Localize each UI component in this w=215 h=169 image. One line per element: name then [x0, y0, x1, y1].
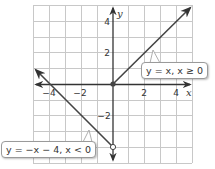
closed-point-origin — [110, 81, 115, 86]
svg-text:−2: −2 — [73, 88, 86, 98]
callout-y-equals-x: y = x, x ≥ 0 — [141, 62, 208, 79]
x-axis-label: x — [186, 87, 192, 98]
line-y-equals-neg-x-minus-4 — [36, 70, 113, 147]
svg-text:4: 4 — [173, 88, 179, 98]
svg-text:4: 4 — [104, 17, 110, 27]
callout-y-equals-neg-x-minus-4: y = −x − 4, x < 0 — [1, 141, 96, 158]
svg-text:−2: −2 — [97, 111, 110, 121]
svg-text:2: 2 — [104, 48, 110, 58]
y-axis-label: y — [116, 8, 123, 19]
svg-text:−4: −4 — [42, 88, 56, 98]
svg-text:2: 2 — [141, 88, 147, 98]
open-point-0-neg4 — [110, 144, 115, 149]
